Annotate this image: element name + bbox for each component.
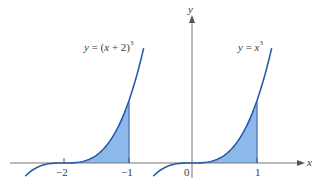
tick-label-1: 1 — [255, 167, 261, 178]
graph-canvas — [0, 0, 317, 188]
y-axis-arrow-icon — [189, 15, 195, 23]
eq-right-exp: 3 — [260, 39, 264, 47]
tick-label-neg1: −1 — [121, 167, 133, 178]
eq-left-exp: 3 — [130, 39, 134, 47]
x-axis-arrow-icon — [297, 160, 305, 166]
shaded-area-left — [64, 102, 129, 163]
eq-right-rest: = — [243, 41, 255, 53]
eq-left-rest: = ( — [89, 41, 104, 53]
y-axis-label: y — [188, 4, 193, 15]
curve-label-cube: y = x3 — [238, 42, 263, 53]
eq-left-mid: + 2) — [109, 41, 130, 53]
x-axis-label: x — [307, 157, 312, 168]
tick-label-neg2: −2 — [56, 167, 68, 178]
shaded-area-right — [192, 102, 257, 163]
curve-label-shifted-cube: y = (x + 2)3 — [84, 42, 134, 53]
tick-label-0: 0 — [184, 167, 190, 178]
y-axis-label-text: y — [188, 3, 193, 15]
eq-right-var: x — [255, 41, 260, 53]
x-axis-label-text: x — [307, 156, 312, 168]
